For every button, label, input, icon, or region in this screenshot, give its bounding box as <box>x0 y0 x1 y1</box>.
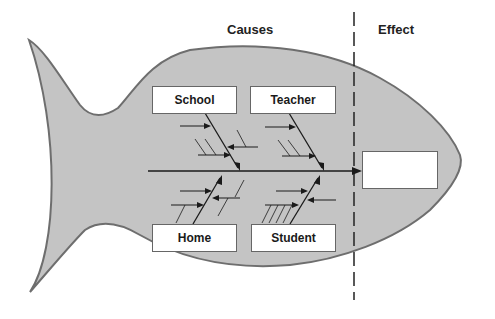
category-box-school: School <box>152 86 237 114</box>
effect-box <box>362 151 438 189</box>
category-label-student: Student <box>271 231 316 245</box>
category-box-student: Student <box>251 224 336 252</box>
category-label-teacher: Teacher <box>270 93 315 107</box>
category-label-home: Home <box>178 231 211 245</box>
effect-header: Effect <box>378 22 414 37</box>
category-label-school: School <box>174 93 214 107</box>
category-box-home: Home <box>152 224 237 252</box>
category-box-teacher: Teacher <box>250 86 336 114</box>
causes-header: Causes <box>227 22 273 37</box>
